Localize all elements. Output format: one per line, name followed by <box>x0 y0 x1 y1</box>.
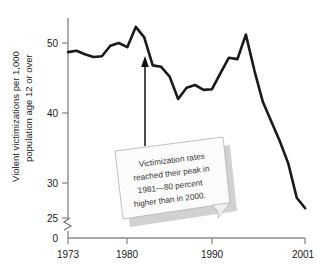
x-tick-label-1973: 1973 <box>57 249 80 260</box>
y-axis-ticks: 50 40 30 25 0 <box>47 38 68 244</box>
y-axis-label-line1: Violent victimizations per 1,000 <box>10 51 21 182</box>
y-axis-label: Violent victimizations per 1,000 populat… <box>10 51 34 182</box>
arrow-head-icon <box>141 56 149 67</box>
y-tick-label-40: 40 <box>47 108 59 119</box>
x-tick-label-2001: 2001 <box>292 249 315 260</box>
y-tick-label-0: 0 <box>52 233 58 244</box>
y-tick-label-50: 50 <box>47 38 59 49</box>
y-tick-label-30: 30 <box>47 178 59 189</box>
annotation-arrow <box>141 56 149 146</box>
x-tick-label-1990: 1990 <box>201 249 224 260</box>
x-tick-label-1980: 1980 <box>116 249 139 260</box>
y-axis-break-icon <box>64 218 71 230</box>
y-tick-label-25: 25 <box>47 213 59 224</box>
y-axis-label-line2: population age 12 or over <box>23 54 34 162</box>
annotation-callout: Victimization rates reached their peak i… <box>115 137 237 227</box>
x-axis-ticks: 1973 1980 1990 2001 <box>57 238 315 260</box>
chart-figure: Violent victimizations per 1,000 populat… <box>0 0 322 270</box>
